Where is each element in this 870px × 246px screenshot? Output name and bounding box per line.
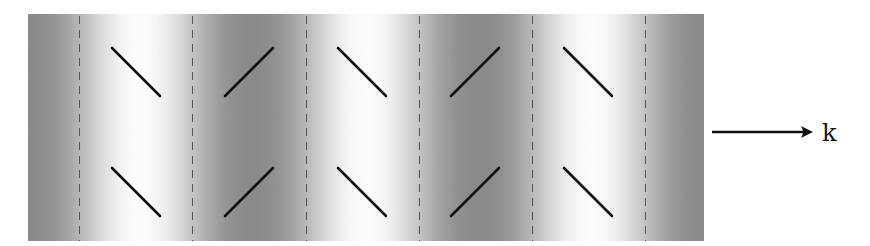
wave-vector-label: k (822, 119, 837, 147)
wave-diagram: k (0, 0, 870, 246)
wave-vector-arrow: k (712, 119, 837, 147)
